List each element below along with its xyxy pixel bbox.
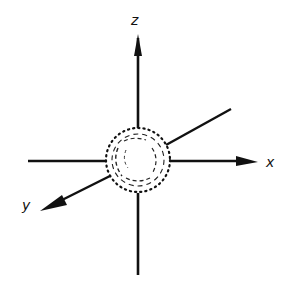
z-arrowhead-icon bbox=[134, 34, 142, 56]
z-axis-label: z bbox=[130, 12, 139, 28]
x-arrowhead-icon bbox=[236, 156, 258, 166]
x-axis-label: x bbox=[265, 154, 275, 170]
y-axis-label: y bbox=[21, 197, 31, 213]
origin-sphere bbox=[106, 128, 170, 192]
coordinate-axes-diagram: z x y bbox=[0, 0, 300, 292]
y-arrowhead-icon bbox=[40, 195, 67, 211]
